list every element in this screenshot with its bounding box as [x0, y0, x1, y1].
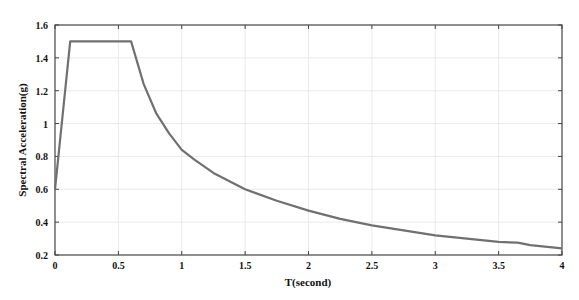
- x-tick-label: 2.5: [366, 260, 379, 271]
- x-tick-label: 3: [433, 260, 438, 271]
- x-tick-label: 4: [560, 260, 565, 271]
- spectrum-chart: 00.511.522.533.54 0.20.40.60.811.21.41.6…: [0, 0, 579, 300]
- y-tick-label: 1: [43, 119, 48, 130]
- y-tick-labels: 0.20.40.60.811.21.41.6: [36, 20, 49, 261]
- y-tick-label: 0.2: [36, 250, 49, 261]
- x-tick-label: 1.5: [239, 260, 252, 271]
- y-tick-label: 0.8: [36, 151, 49, 162]
- y-tick-label: 1.6: [36, 20, 49, 31]
- grid-lines: [55, 25, 562, 255]
- x-tick-label: 0: [53, 260, 58, 271]
- x-tick-label: 1: [179, 260, 184, 271]
- x-tick-label: 3.5: [492, 260, 505, 271]
- x-tick-label: 2: [306, 260, 311, 271]
- y-tick-label: 1.2: [36, 86, 49, 97]
- x-axis-label: T(second): [285, 276, 332, 289]
- y-tick-label: 1.4: [36, 53, 49, 64]
- y-axis-label: Spectral Acceleration(g): [16, 83, 29, 197]
- y-tick-label: 0.6: [36, 184, 49, 195]
- x-tick-label: 0.5: [112, 260, 125, 271]
- y-tick-label: 0.4: [36, 217, 49, 228]
- x-tick-labels: 00.511.522.533.54: [53, 260, 565, 271]
